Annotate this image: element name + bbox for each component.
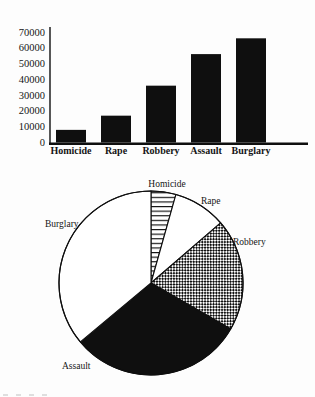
y-tick-label: 40000 — [19, 74, 45, 85]
pie-label-assault: Assault — [62, 361, 91, 371]
bar-label-burglary: Burglary — [232, 145, 271, 156]
bar-label-assault: Assault — [190, 145, 222, 156]
bar-burglary — [236, 38, 266, 142]
pie-label-robbery: Robbery — [233, 237, 266, 247]
pie-label-rape: Rape — [201, 196, 221, 206]
bar-chart-figure: 010000200003000040000500006000070000Homi… — [0, 0, 315, 160]
scanned-figure-page: 010000200003000040000500006000070000Homi… — [0, 0, 315, 397]
pie-chart-figure: HomicideRapeRobberyAssaultBurglary — [0, 160, 315, 397]
y-tick-label: 70000 — [19, 27, 45, 38]
cropped-caption-fragment — [3, 394, 55, 396]
bar-assault — [191, 54, 221, 142]
bar-robbery — [146, 86, 176, 143]
y-tick-label: 60000 — [19, 42, 45, 53]
pie-label-burglary: Burglary — [45, 219, 79, 229]
y-tick-label: 50000 — [19, 58, 45, 69]
y-tick-label: 30000 — [19, 90, 45, 101]
bar-rape — [101, 116, 131, 143]
bar-label-robbery: Robbery — [142, 145, 179, 156]
bar-label-homicide: Homicide — [50, 145, 92, 156]
bar-homicide — [56, 130, 86, 143]
y-tick-label: 0 — [40, 137, 45, 148]
bar-label-rape: Rape — [105, 145, 128, 156]
bar-chart: 010000200003000040000500006000070000Homi… — [0, 0, 315, 160]
pie-chart: HomicideRapeRobberyAssaultBurglary — [0, 160, 315, 397]
y-tick-label: 10000 — [19, 121, 45, 132]
y-tick-label: 20000 — [19, 105, 45, 116]
pie-label-homicide: Homicide — [148, 179, 185, 189]
